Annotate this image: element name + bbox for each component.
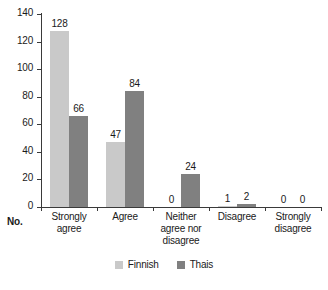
x-axis-category-label: Strongly disagree xyxy=(265,211,321,235)
y-axis-tick-label: 120 xyxy=(17,35,33,46)
y-axis-tick-label: 60 xyxy=(22,117,33,128)
y-axis-tick-label: 40 xyxy=(22,145,33,156)
bar-finnish: 128 xyxy=(50,31,69,207)
chart-legend: FinnishThais xyxy=(0,259,328,270)
y-axis-tick-label: 140 xyxy=(17,7,33,18)
x-axis-category-label: Agree xyxy=(97,211,153,223)
axis-origin-label: No. xyxy=(7,216,23,227)
bar-thais: 84 xyxy=(125,91,144,207)
bar-value-label: 128 xyxy=(51,18,67,29)
bar-group: 00 xyxy=(265,14,321,207)
bar-value-label: 47 xyxy=(110,129,121,140)
bar-group-bars: 12866 xyxy=(41,14,97,207)
legend-swatch-thais-icon xyxy=(177,261,185,269)
bar-chart: 020406080100120140 1286647840241200 Stro… xyxy=(0,0,328,290)
bar-value-label: 2 xyxy=(244,191,249,202)
bar-value-label: 24 xyxy=(185,161,196,172)
bar-thais: 2 xyxy=(237,204,256,207)
bar-group-bars: 00 xyxy=(265,14,321,207)
x-axis-category-label: Disagree xyxy=(209,211,265,223)
bar-value-label: 0 xyxy=(169,194,174,205)
legend-swatch-finnish-icon xyxy=(115,261,123,269)
bar-group-bars: 12 xyxy=(209,14,265,207)
legend-label: Finnish xyxy=(128,259,159,270)
bar-value-label: 0 xyxy=(281,194,286,205)
x-axis-tick-mark xyxy=(321,207,322,211)
bar-group: 12866 xyxy=(41,14,97,207)
legend-item[interactable]: Finnish xyxy=(115,259,159,270)
bar-group: 4784 xyxy=(97,14,153,207)
x-axis-category-label: Strongly agree xyxy=(41,211,97,235)
bar-value-label: 0 xyxy=(300,194,305,205)
bar-thais: 66 xyxy=(69,116,88,207)
y-axis-tick-label: 100 xyxy=(17,62,33,73)
bar-group-bars: 4784 xyxy=(97,14,153,207)
bar-group: 024 xyxy=(153,14,209,207)
bar-finnish: 47 xyxy=(106,142,125,207)
x-axis-category-label: Neither agree nor disagree xyxy=(153,211,209,247)
y-axis-tick-label: 20 xyxy=(22,172,33,183)
legend-item[interactable]: Thais xyxy=(177,259,213,270)
bar-group-bars: 024 xyxy=(153,14,209,207)
bar-thais: 24 xyxy=(181,174,200,207)
bar-value-label: 66 xyxy=(73,103,84,114)
bar-value-label: 1 xyxy=(225,193,230,204)
bar-group: 12 xyxy=(209,14,265,207)
x-axis-line xyxy=(41,207,322,208)
y-axis-tick-label: 0 xyxy=(28,200,33,211)
bar-finnish: 1 xyxy=(218,206,237,207)
y-axis-tick-label: 80 xyxy=(22,90,33,101)
legend-label: Thais xyxy=(190,259,213,270)
bar-value-label: 84 xyxy=(129,78,140,89)
